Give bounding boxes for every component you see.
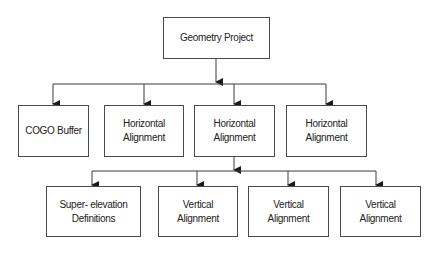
node-superelevation-definitions: Super- elevation Definitions — [46, 186, 141, 237]
node-vertical-alignment-3: Vertical Alignment — [340, 186, 421, 237]
node-cogo-buffer: COGO Buffer — [18, 105, 89, 157]
node-label: Vertical Alignment — [268, 198, 310, 226]
node-label: Vertical Alignment — [177, 198, 219, 226]
hierarchy-diagram: Geometry Project COGO Buffer Horizontal … — [0, 0, 439, 256]
node-label: Horizontal Alignment — [305, 117, 347, 145]
node-vertical-alignment-2: Vertical Alignment — [248, 186, 329, 237]
node-vertical-alignment-1: Vertical Alignment — [158, 186, 238, 237]
node-label: Horizontal Alignment — [123, 117, 165, 145]
node-label: COGO Buffer — [25, 124, 82, 138]
node-horizontal-alignment-3: Horizontal Alignment — [286, 105, 367, 157]
node-label: Vertical Alignment — [360, 198, 402, 226]
node-label: Horizontal Alignment — [213, 117, 255, 145]
node-horizontal-alignment-1: Horizontal Alignment — [104, 105, 184, 157]
node-geometry-project: Geometry Project — [163, 17, 270, 59]
node-label: Super- elevation Definitions — [59, 198, 127, 226]
node-horizontal-alignment-2: Horizontal Alignment — [194, 105, 275, 157]
node-label: Geometry Project — [180, 31, 253, 45]
